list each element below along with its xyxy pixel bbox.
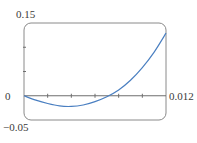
x-max-label: 0.012 xyxy=(169,91,194,102)
y-min-label: −0.05 xyxy=(3,122,28,133)
chart-canvas xyxy=(0,0,197,143)
y-zero-label: 0 xyxy=(5,91,11,102)
y-max-label: 0.15 xyxy=(16,9,35,20)
viewing-rectangle-frame xyxy=(24,23,166,120)
